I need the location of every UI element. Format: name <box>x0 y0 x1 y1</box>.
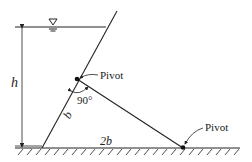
angle-label: 90° <box>77 94 92 106</box>
pivot-top-leader <box>80 74 98 78</box>
free-surface-triangle-icon <box>49 19 57 31</box>
gate-length-label: b <box>60 109 75 121</box>
pivot-top-label: Pivot <box>100 69 123 81</box>
gate-diagram: h Pivot Pivot <box>0 0 252 162</box>
height-label: h <box>11 75 18 90</box>
pivot-bottom-point <box>181 145 186 150</box>
ground-hatching <box>18 149 239 155</box>
base-length-label: 2b <box>100 134 112 148</box>
pivot-bottom-label: Pivot <box>205 121 228 133</box>
gate-member <box>77 79 183 148</box>
pivot-bottom-leader <box>185 128 203 144</box>
pivot-top-point <box>75 77 80 82</box>
